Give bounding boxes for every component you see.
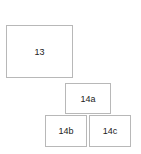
box-14a: 14a xyxy=(65,83,111,114)
box-14b-label: 14b xyxy=(58,126,73,136)
box-13-label: 13 xyxy=(34,47,44,57)
box-14c-label: 14c xyxy=(103,126,118,136)
box-13: 13 xyxy=(6,25,73,78)
box-14c: 14c xyxy=(89,115,131,147)
box-14a-label: 14a xyxy=(80,94,95,104)
box-14b: 14b xyxy=(45,115,87,147)
